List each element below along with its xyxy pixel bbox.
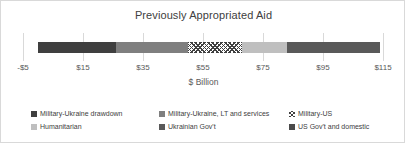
legend-label: US Gov't and domestic	[298, 122, 369, 131]
legend-label: Ukrainian Gov't	[168, 122, 216, 131]
bar-segment	[188, 42, 242, 53]
bar-segment	[242, 42, 287, 53]
legend-row: Military-Ukraine drawdownMilitary-Ukrain…	[31, 107, 391, 120]
axis-tick	[383, 33, 384, 61]
legend-item[interactable]: Military-Ukraine drawdown	[31, 107, 122, 120]
x-axis-tick-label: $75	[256, 63, 269, 72]
x-axis-tick-label: -$5	[17, 63, 29, 72]
legend-swatch-icon	[31, 124, 37, 130]
chart-frame: Previously Appropriated Aid -$5$15$35$55…	[0, 0, 405, 143]
legend-item[interactable]: Military-Ukraine, LT and services	[159, 107, 269, 120]
plot-area	[1, 33, 406, 63]
legend-swatch-icon	[31, 111, 37, 117]
x-axis-tick-label: $115	[374, 63, 391, 72]
legend-label: Military-US	[298, 109, 332, 118]
x-axis-tick-label: $15	[76, 63, 89, 72]
legend-item[interactable]: Ukrainian Gov't	[159, 120, 216, 133]
legend-label: Humanitarian	[40, 122, 82, 131]
legend-item[interactable]: Humanitarian	[31, 120, 82, 133]
x-axis-tick-label: $35	[136, 63, 149, 72]
legend-label: Military-Ukraine drawdown	[40, 109, 122, 118]
x-axis-tick-label: $55	[196, 63, 209, 72]
stacked-bar	[38, 42, 380, 53]
legend-swatch-icon	[159, 124, 165, 130]
chart-title: Previously Appropriated Aid	[1, 9, 406, 21]
legend-swatch-icon	[289, 124, 295, 130]
chart-legend: Military-Ukraine drawdownMilitary-Ukrain…	[31, 107, 391, 137]
bar-segment	[38, 42, 116, 53]
x-axis-tick-label: $95	[316, 63, 329, 72]
legend-swatch-icon	[159, 111, 165, 117]
axis-tick	[23, 33, 24, 61]
legend-item[interactable]: US Gov't and domestic	[289, 120, 369, 133]
legend-label: Military-Ukraine, LT and services	[168, 109, 269, 118]
legend-item[interactable]: Military-US	[289, 107, 332, 120]
legend-row: HumanitarianUkrainian Gov'tUS Gov't and …	[31, 120, 391, 133]
x-axis-title: $ Billion	[1, 77, 406, 87]
bar-segment	[287, 42, 380, 53]
bar-segment	[116, 42, 188, 53]
legend-swatch-icon	[289, 111, 295, 117]
x-axis-labels: -$5$15$35$55$75$95$115	[1, 63, 406, 77]
